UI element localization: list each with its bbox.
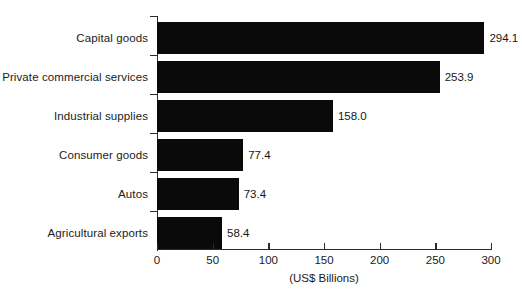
bar — [157, 100, 333, 132]
bar-row: 73.4 — [157, 178, 491, 210]
bar-chart: Capital goodsPrivate commercial services… — [0, 0, 522, 297]
plot-area: 294.1253.9158.077.473.458.4 — [157, 16, 491, 250]
category-label: Capital goods — [76, 32, 148, 45]
bar — [157, 22, 484, 54]
bar-value-label: 58.4 — [222, 227, 249, 240]
bar-value-label: 73.4 — [239, 188, 266, 201]
x-axis-tick — [213, 243, 214, 250]
bar — [157, 139, 243, 171]
x-axis-tick — [491, 243, 492, 250]
category-label: Autos — [118, 188, 148, 201]
x-axis-tick-label: 250 — [426, 254, 445, 267]
bar-value-label: 253.9 — [440, 71, 474, 84]
x-axis-tick-label: 200 — [370, 254, 389, 267]
bar — [157, 178, 239, 210]
bar-row: 294.1 — [157, 22, 491, 54]
category-label: Consumer goods — [59, 149, 148, 162]
category-label: Agricultural exports — [48, 227, 148, 240]
bar-value-label: 294.1 — [484, 32, 518, 45]
category-label: Industrial supplies — [54, 110, 148, 123]
x-axis-tick-label: 300 — [481, 254, 500, 267]
x-axis-tick — [435, 243, 436, 250]
x-axis-tick-label: 100 — [259, 254, 278, 267]
category-label-column: Capital goodsPrivate commercial services… — [0, 0, 148, 297]
x-axis-title: (US$ Billions) — [157, 272, 491, 285]
bar-row: 158.0 — [157, 100, 491, 132]
x-axis-tick — [324, 243, 325, 250]
x-axis-tick — [157, 243, 158, 250]
x-axis-tick — [380, 243, 381, 250]
bar-value-label: 77.4 — [243, 149, 270, 162]
x-axis-tick-label: 0 — [154, 254, 160, 267]
bar-row: 253.9 — [157, 61, 491, 93]
bar-row: 77.4 — [157, 139, 491, 171]
x-axis-tick-label: 150 — [314, 254, 333, 267]
x-axis-tick — [268, 243, 269, 250]
x-axis-tick-label: 50 — [206, 254, 219, 267]
bar-value-label: 158.0 — [333, 110, 367, 123]
bar — [157, 61, 440, 93]
category-label: Private commercial services — [2, 71, 148, 84]
